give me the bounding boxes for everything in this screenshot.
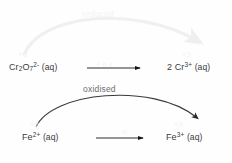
reduced-curved-arrow — [24, 18, 196, 55]
species-iron-iii: Fe3+ (aq) — [166, 131, 202, 142]
iron-ii-charge: 2+ — [33, 131, 41, 138]
oxidation-state-chromium-iii: +3 — [182, 50, 191, 59]
iron-ii-state: (aq) — [43, 132, 59, 142]
chromium-coefficient: 2 — [167, 62, 175, 72]
iron-iii-state: (aq) — [187, 132, 203, 142]
iron-iii-symbol: Fe — [166, 132, 177, 142]
dichromate-o: O — [22, 62, 29, 72]
chromium-charge: 3+ — [184, 61, 192, 68]
iron-iii-charge: 3+ — [177, 131, 185, 138]
oxidation-state-iron-ii: +2 — [30, 120, 39, 129]
species-chromium-iii: 2 Cr3+ (aq) — [167, 61, 210, 72]
electron-top-charge: - — [113, 57, 115, 64]
dichromate-cr: Cr — [9, 62, 19, 72]
oxidised-curved-arrow — [36, 95, 196, 127]
dichromate-charge: 2- — [33, 61, 39, 68]
chromium-symbol: Cr — [175, 62, 185, 72]
oxidation-state-dichromate: +6 — [18, 50, 27, 59]
chromium-state: (aq) — [195, 62, 211, 72]
species-dichromate: Cr2O72- (aq) — [9, 61, 57, 72]
dichromate-state: (aq) — [42, 62, 58, 72]
redox-diagram: reduced oxidised + 6 e- - e- +6 +3 +2 +3… — [0, 0, 232, 163]
electron-label-reduction: + 6 e- — [96, 57, 115, 69]
oxidised-label: oxidised — [83, 84, 116, 94]
electron-bottom-charge: - — [127, 124, 129, 131]
reduced-label: reduced — [82, 9, 114, 19]
electron-bottom-text: - e — [118, 127, 127, 136]
iron-ii-symbol: Fe — [22, 132, 33, 142]
electron-label-oxidation: - e- — [118, 124, 129, 136]
species-iron-ii: Fe2+ (aq) — [22, 131, 58, 142]
electron-top-text: + 6 e — [96, 60, 113, 69]
oxidation-state-iron-iii: +3 — [174, 120, 183, 129]
